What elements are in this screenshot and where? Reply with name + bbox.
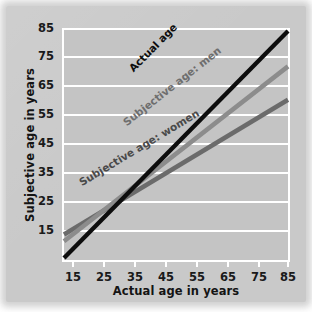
x-tick-mark [134, 262, 136, 267]
x-tick-mark [258, 262, 260, 267]
x-tick-label: 85 [274, 270, 302, 284]
x-tick-mark [72, 262, 74, 267]
x-tick-label: 55 [183, 270, 211, 284]
x-axis-title: Actual age in years [62, 284, 290, 298]
x-tick-label: 65 [214, 270, 242, 284]
x-tick-label: 45 [152, 270, 180, 284]
x-tick-label: 75 [245, 270, 273, 284]
line-subjective-age-men [64, 66, 288, 241]
x-tick-label: 35 [121, 270, 149, 284]
x-tick-label: 25 [90, 270, 118, 284]
x-tick-mark [287, 262, 289, 267]
x-tick-mark [227, 262, 229, 267]
x-tick-label: 15 [59, 270, 87, 284]
x-tick-mark [103, 262, 105, 267]
y-axis-title: Subjective age in years [23, 29, 37, 261]
chart-figure: 85 75 65 55 45 35 25 15 15 25 35 45 55 6… [0, 0, 312, 312]
x-tick-mark [165, 262, 167, 267]
line-actual-age [64, 31, 288, 258]
series-lines [64, 30, 288, 260]
x-tick-mark [196, 262, 198, 267]
plot-area [62, 28, 290, 262]
